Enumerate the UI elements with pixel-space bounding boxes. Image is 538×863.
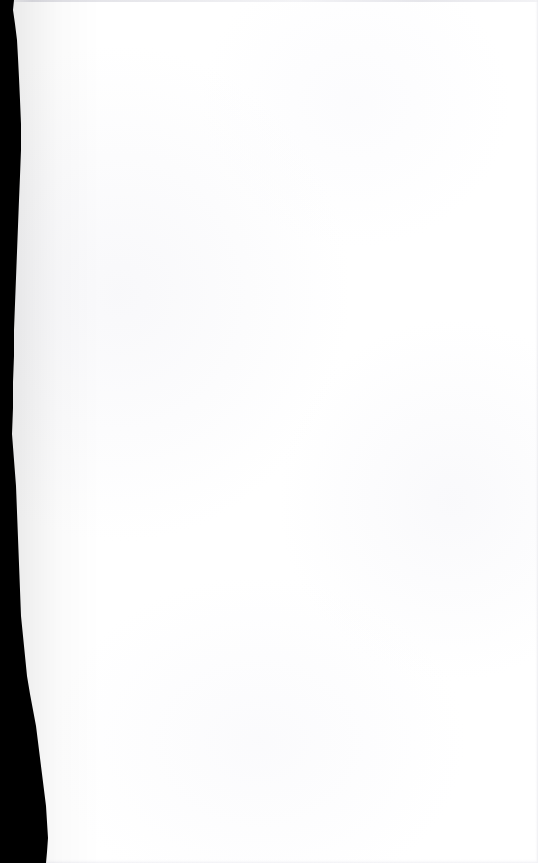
scanned-page bbox=[0, 0, 538, 863]
gutter-shadow-shape bbox=[0, 0, 90, 863]
left-gutter-shadow bbox=[0, 0, 90, 863]
